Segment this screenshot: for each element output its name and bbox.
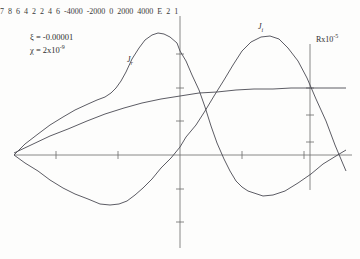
curve-label-ji: Ji xyxy=(258,22,263,33)
figure-canvas: ξ = -0.00001 χ = 2x10-9 Jr Ji 7 8 6 4 2 … xyxy=(0,0,360,259)
param-chi: χ = 2x10-9 xyxy=(30,43,73,56)
curve-label-jr: Jr xyxy=(127,55,133,66)
parameter-annotation: ξ = -0.00001 χ = 2x10-9 xyxy=(30,31,73,56)
param-xi: ξ = -0.00001 xyxy=(30,31,73,43)
right-axis-title: Rx10-5 xyxy=(316,33,338,44)
param-chi-exponent: -9 xyxy=(60,44,65,50)
